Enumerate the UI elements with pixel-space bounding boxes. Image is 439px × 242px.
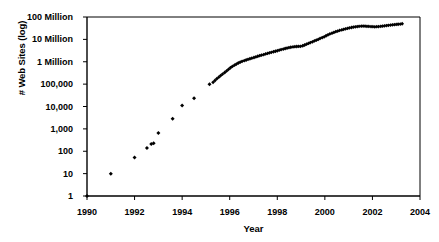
chart-container: # Web Sites (log) 1101001,00010,000100,0…	[0, 0, 439, 242]
data-point	[145, 146, 149, 150]
x-axis-title: Year	[87, 223, 420, 234]
data-point	[207, 82, 211, 86]
data-point	[180, 104, 184, 108]
data-point	[171, 117, 175, 121]
x-tick-label: 1994	[160, 207, 204, 217]
x-tick-label: 1990	[65, 207, 109, 217]
x-tick-label: 2004	[398, 207, 439, 217]
x-tick-label: 1996	[208, 207, 252, 217]
tick-marks	[83, 17, 420, 200]
x-tick-label: 2000	[303, 207, 347, 217]
x-tick-label: 2002	[350, 207, 394, 217]
data-point	[85, 194, 89, 198]
data-point	[133, 156, 137, 160]
axis-frame	[87, 17, 420, 196]
x-axis-tick-labels: 19901992199419961998200020022004	[0, 200, 439, 220]
data-series-markers	[85, 22, 404, 198]
data-point	[192, 96, 196, 100]
data-point	[156, 131, 160, 135]
data-point	[109, 172, 113, 176]
x-tick-label: 1992	[113, 207, 157, 217]
x-tick-label: 1998	[255, 207, 299, 217]
